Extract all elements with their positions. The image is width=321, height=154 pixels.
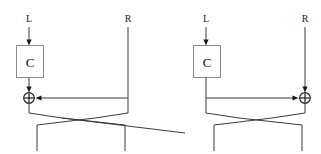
right-panel: L R C	[194, 13, 311, 151]
left-panel-arrow-into-xor-top-icon	[26, 87, 31, 93]
left-panel: L R C	[17, 13, 186, 151]
left-panel-label-L: L	[26, 13, 32, 24]
left-panel-arrow-into-xor-right-icon	[36, 95, 42, 100]
right-panel-cross-wire-a	[214, 113, 305, 151]
right-panel-arrow-into-box-icon	[203, 40, 208, 46]
left-panel-label-R: R	[125, 13, 132, 24]
right-panel-function-box-label: C	[203, 55, 212, 70]
left-panel-bottom-right-rail	[62, 118, 125, 151]
right-panel-label-L: L	[203, 13, 209, 24]
left-panel-cross-wire-b	[37, 113, 128, 151]
right-panel-arrow-into-xor-top-icon	[302, 87, 307, 93]
right-panel-cross-wire-b	[206, 113, 302, 151]
diagram-canvas: L R C	[0, 0, 321, 154]
feistel-round-figure: L R C	[0, 0, 321, 154]
right-panel-arrow-into-xor-left-icon	[293, 95, 299, 100]
right-panel-label-R: R	[302, 13, 309, 24]
left-panel-arrow-into-box-icon	[26, 40, 31, 46]
left-panel-function-box-label: C	[26, 55, 35, 70]
